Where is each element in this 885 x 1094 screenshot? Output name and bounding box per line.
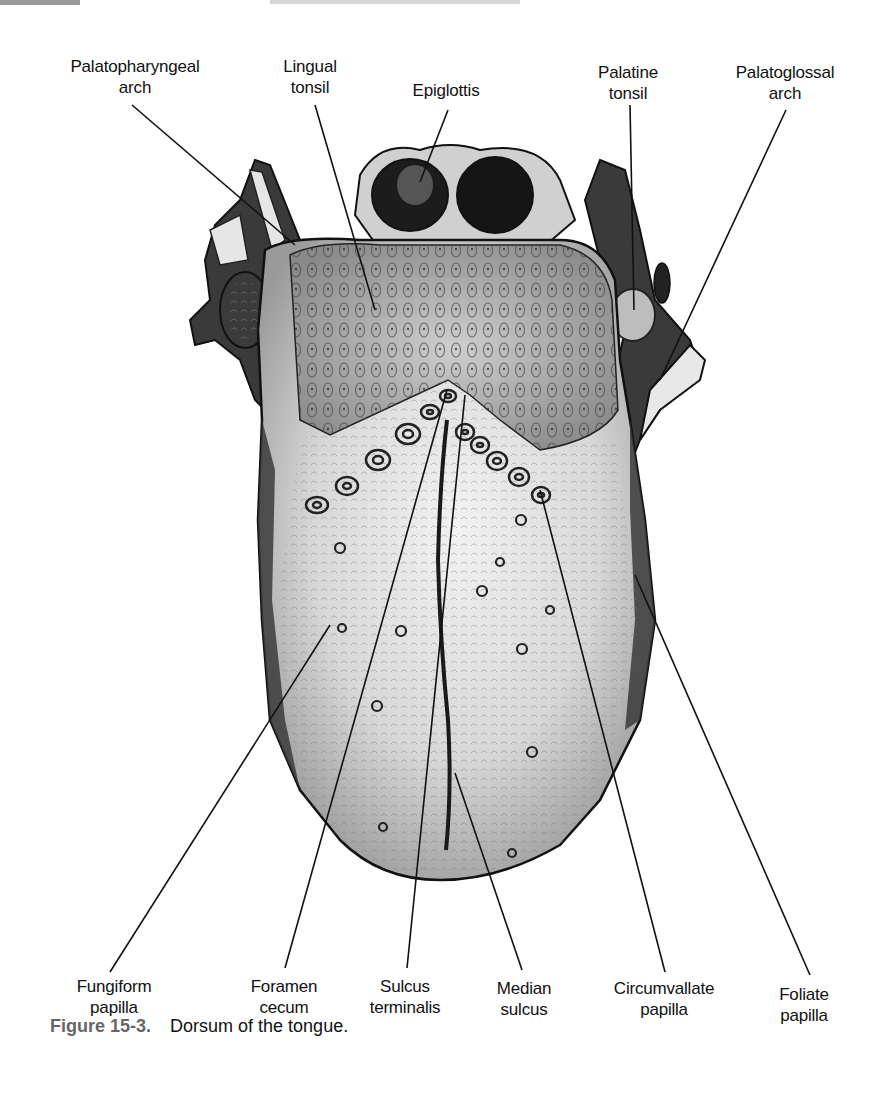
label-line: Palatine (598, 62, 658, 83)
label-fungiform-papilla: Fungiform papilla (77, 976, 152, 1018)
label-line: papilla (614, 999, 714, 1020)
label-line: Palatoglossal (736, 62, 835, 83)
label-line: tonsil (283, 77, 336, 98)
label-median-sulcus: Median sulcus (497, 978, 552, 1020)
label-line: Sulcus (370, 976, 441, 997)
figure-caption-text: Dorsum of the tongue. (170, 1016, 348, 1036)
label-foramen-cecum: Foramen cecum (251, 976, 318, 1018)
label-line: Epiglottis (413, 80, 480, 101)
label-line: arch (70, 77, 199, 98)
epiglottis-region (355, 145, 575, 250)
figure-number: Figure 15-3. (50, 1016, 151, 1036)
label-line: terminalis (370, 997, 441, 1018)
label-palatine-tonsil: Palatine tonsil (598, 62, 658, 104)
label-epiglottis: Epiglottis (413, 80, 480, 101)
tongue-illustration (0, 0, 885, 1094)
label-sulcus-terminalis: Sulcus terminalis (370, 976, 441, 1018)
label-lingual-tonsil: Lingual tonsil (283, 56, 336, 98)
label-line: tonsil (598, 83, 658, 104)
label-line: papilla (779, 1005, 829, 1026)
label-line: Fungiform (77, 976, 152, 997)
label-line: Lingual (283, 56, 336, 77)
label-palatopharyngeal-arch: Palatopharyngeal arch (70, 56, 199, 98)
figure-caption: Figure 15-3. Dorsum of the tongue. (50, 1016, 348, 1037)
label-line: Palatopharyngeal (70, 56, 199, 77)
label-line: Foliate (779, 984, 829, 1005)
label-line: papilla (77, 997, 152, 1018)
label-line: cecum (251, 997, 318, 1018)
label-line: Circumvallate (614, 978, 714, 999)
label-line: Median (497, 978, 552, 999)
label-circumvallate-papilla: Circumvallate papilla (614, 978, 714, 1020)
label-line: Foramen (251, 976, 318, 997)
label-line: arch (736, 83, 835, 104)
label-line: sulcus (497, 999, 552, 1020)
label-palatoglossal-arch: Palatoglossal arch (736, 62, 835, 104)
label-foliate-papilla: Foliate papilla (779, 984, 829, 1026)
